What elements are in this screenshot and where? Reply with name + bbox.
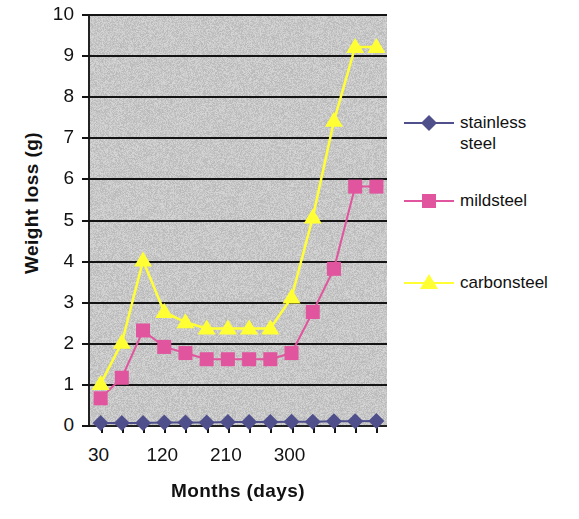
data-point	[177, 415, 193, 431]
data-point	[136, 323, 150, 337]
data-point	[304, 208, 322, 223]
y-tick	[82, 96, 90, 98]
data-point	[94, 391, 108, 405]
data-point	[285, 346, 299, 360]
y-tick-label: 2	[32, 333, 74, 352]
legend-item-mildsteel[interactable]: mildsteel	[404, 190, 527, 211]
data-point	[346, 38, 364, 53]
chart-figure: Weight loss (g) 012345678910 30120210300…	[0, 0, 579, 519]
data-point	[240, 319, 258, 334]
data-point	[156, 415, 172, 431]
legend-label: stainless steel	[454, 112, 526, 154]
data-point	[242, 352, 256, 366]
legend-item-stainless-steel[interactable]: stainless steel	[404, 112, 526, 154]
data-point	[115, 371, 129, 385]
legend-label: carbonsteel	[454, 272, 548, 293]
data-point	[263, 352, 277, 366]
data-point	[178, 346, 192, 360]
y-tick	[82, 55, 90, 57]
data-point	[284, 414, 300, 430]
y-tick	[82, 384, 90, 386]
data-point	[325, 112, 343, 127]
diamond-icon	[404, 113, 454, 133]
legend-item-carbonsteel[interactable]: carbonsteel	[404, 272, 548, 293]
data-point	[113, 334, 131, 349]
y-tick-label: 6	[32, 168, 74, 187]
data-point	[369, 180, 383, 194]
y-tick-label: 8	[32, 86, 74, 105]
data-point	[176, 313, 194, 328]
data-point	[347, 413, 363, 429]
y-tick	[82, 425, 90, 427]
data-point	[367, 38, 385, 53]
data-point	[327, 262, 341, 276]
y-tick-label: 5	[32, 210, 74, 229]
data-point	[261, 319, 279, 334]
data-point	[219, 319, 237, 334]
data-point	[305, 414, 321, 430]
y-tick-label: 0	[32, 415, 74, 434]
data-point	[155, 303, 173, 318]
y-tick-label: 3	[32, 292, 74, 311]
data-point	[368, 413, 384, 429]
y-tick-label: 10	[32, 4, 74, 23]
series-line	[101, 187, 377, 399]
y-tick	[82, 137, 90, 139]
x-tick-label: 300	[260, 445, 320, 464]
series-layer	[90, 14, 387, 425]
y-tick	[82, 14, 90, 16]
data-point	[220, 414, 236, 430]
y-axis-title: Weight loss (g)	[21, 93, 43, 313]
plot-area	[88, 14, 387, 427]
x-axis-title: Months (days)	[88, 480, 388, 502]
y-tick-label: 7	[32, 127, 74, 146]
data-point	[92, 375, 110, 390]
y-tick	[82, 220, 90, 222]
data-point	[348, 180, 362, 194]
data-point	[114, 415, 130, 431]
y-tick	[82, 261, 90, 263]
data-point	[200, 352, 214, 366]
data-point	[93, 415, 109, 431]
data-point	[241, 414, 257, 430]
data-point	[157, 340, 171, 354]
data-point	[283, 289, 301, 304]
data-point	[199, 415, 215, 431]
data-point	[134, 252, 152, 267]
y-tick	[82, 343, 90, 345]
data-point	[326, 413, 342, 429]
data-point	[221, 352, 235, 366]
series-mildsteel	[94, 180, 384, 406]
data-point	[135, 415, 151, 431]
x-tick-label: 210	[196, 445, 256, 464]
series-stainless-steel	[93, 413, 385, 431]
triangle-icon	[404, 273, 454, 293]
y-tick-label: 9	[32, 45, 74, 64]
y-tick	[82, 178, 90, 180]
data-point	[306, 305, 320, 319]
x-tick-label: 30	[69, 445, 129, 464]
y-tick	[82, 302, 90, 304]
y-tick-label: 1	[32, 374, 74, 393]
series-carbonsteel	[92, 38, 386, 390]
x-tick-label: 120	[132, 445, 192, 464]
data-point	[262, 414, 278, 430]
y-tick-label: 4	[32, 251, 74, 270]
legend-label: mildsteel	[454, 190, 527, 211]
square-icon	[404, 191, 454, 211]
